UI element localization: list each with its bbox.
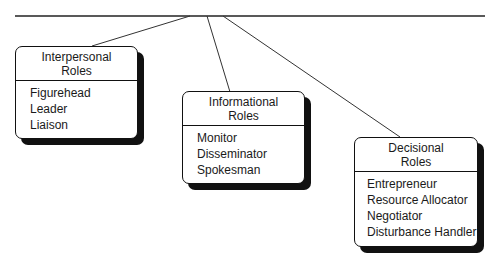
role-item: Disseminator [197,146,304,162]
title-line: Roles [187,109,300,123]
box-title: Decisional Roles [355,138,477,172]
role-item: Monitor [197,130,304,146]
roles-diagram: Interpersonal Roles Figurehead Leader Li… [0,0,497,263]
box-title: Informational Roles [183,92,304,126]
role-list: Entrepreneur Resource Allocator Negotiat… [355,172,477,240]
box-title: Interpersonal Roles [16,47,137,81]
connector-informational [207,16,230,92]
title-line: Informational [187,95,300,109]
role-item: Liaison [30,117,137,133]
role-item: Negotiator [367,208,477,224]
role-item: Figurehead [30,85,137,101]
role-list: Figurehead Leader Liaison [16,81,137,133]
role-item: Entrepreneur [367,176,477,192]
connector-interpersonal [92,16,190,46]
title-line: Roles [359,155,473,169]
interpersonal-roles-box: Interpersonal Roles Figurehead Leader Li… [15,46,138,139]
informational-roles-box: Informational Roles Monitor Disseminator… [182,91,305,184]
role-item: Disturbance Handler [367,224,477,240]
role-item: Leader [30,101,137,117]
role-list: Monitor Disseminator Spokesman [183,126,304,178]
role-item: Resource Allocator [367,192,477,208]
title-line: Roles [20,64,133,78]
role-item: Spokesman [197,162,304,178]
decisional-roles-box: Decisional Roles Entrepreneur Resource A… [354,137,478,247]
title-line: Interpersonal [20,50,133,64]
title-line: Decisional [359,141,473,155]
